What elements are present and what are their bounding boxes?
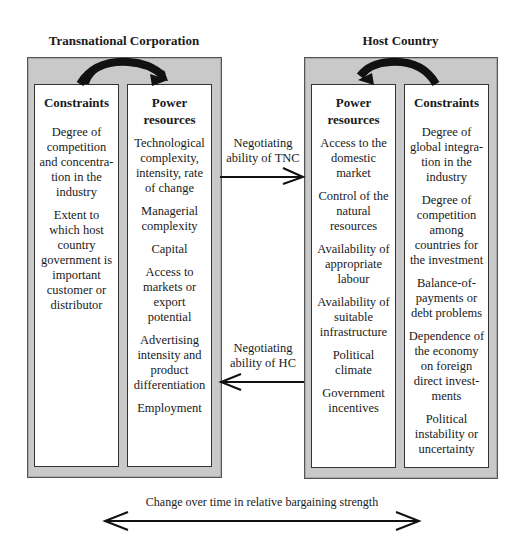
hc-negotiating-arrow-icon	[220, 374, 304, 390]
tnc-cycle-arrow-icon	[80, 62, 168, 86]
tnc-negotiating-arrow-icon	[220, 168, 303, 184]
arrows-layer	[0, 0, 526, 541]
hc-cycle-arrow-icon	[358, 62, 436, 85]
bargaining-strength-label: Change over time in relative bargaining …	[100, 495, 424, 510]
bargaining-strength-double-arrow-icon	[105, 512, 419, 530]
